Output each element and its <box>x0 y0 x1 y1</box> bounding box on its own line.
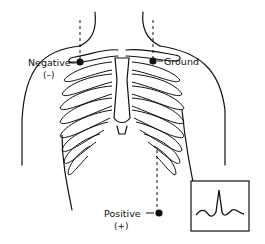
positive-label: Positive <box>104 208 141 219</box>
ground-label: Ground <box>164 56 199 67</box>
ground-electrode <box>149 57 156 64</box>
positive-electrode <box>155 209 162 216</box>
negative-label: Negative <box>28 57 71 68</box>
left-ribs <box>60 62 112 175</box>
sternum <box>114 58 130 123</box>
right-ribs <box>132 62 184 175</box>
neck-right-outline <box>143 12 160 46</box>
left-clavicle <box>69 50 118 63</box>
positive-sign: (+) <box>114 221 129 231</box>
negative-sign: (–) <box>43 70 55 80</box>
ecg-inset-box <box>191 181 249 231</box>
neck-left-outline <box>80 12 95 46</box>
negative-electrode <box>76 58 83 65</box>
